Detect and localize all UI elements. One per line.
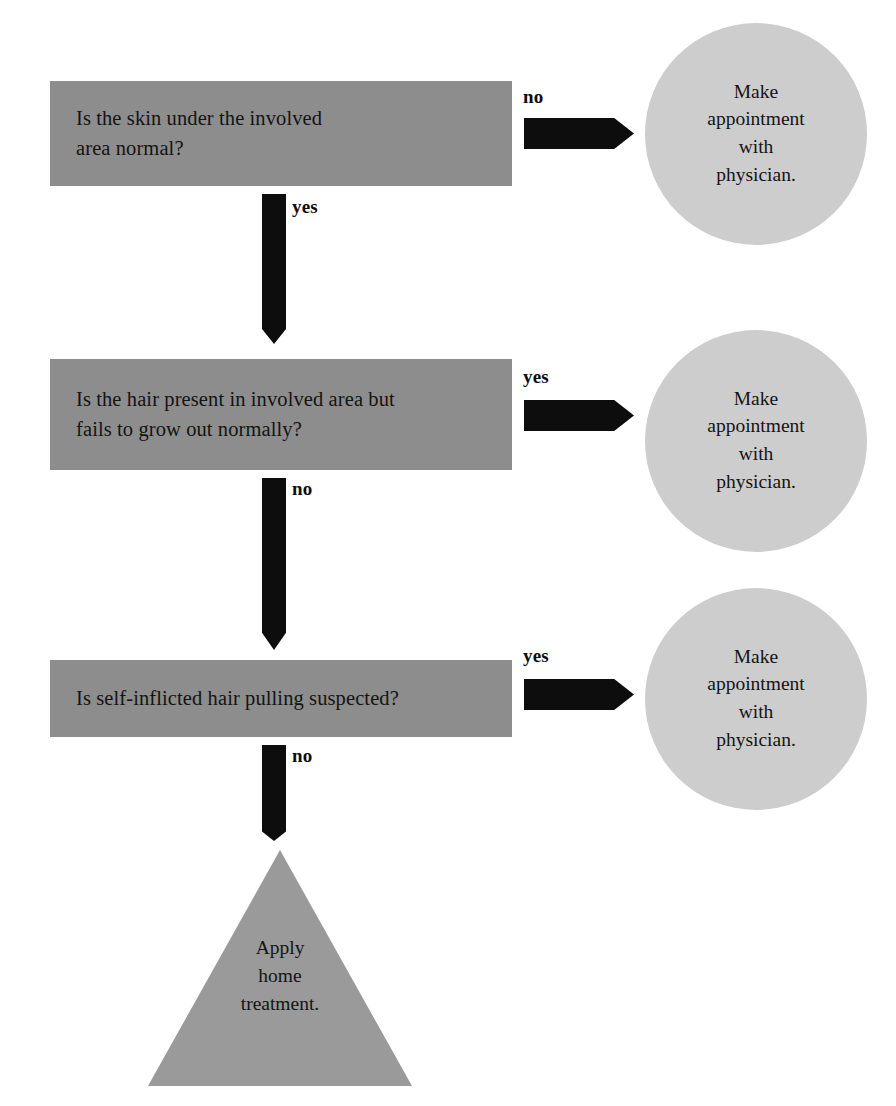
arrow-down-3 (262, 745, 286, 841)
outcome-node-3-label: Make appointment with physician. (707, 643, 804, 756)
outcome-node-3: Make appointment with physician. (645, 588, 867, 810)
edge-label-yes-2: yes (523, 366, 549, 388)
edge-label-no-2: no (292, 478, 312, 500)
arrow-down-1 (262, 194, 286, 344)
decision-node-2: Is the hair present in involved area but… (50, 359, 512, 470)
arrow-right-3 (524, 679, 634, 710)
outcome-node-1: Make appointment with physician. (645, 23, 867, 245)
arrow-right-1 (524, 118, 634, 149)
edge-label-no-3: no (292, 745, 312, 767)
edge-label-yes-1: yes (292, 196, 318, 218)
arrow-down-2 (262, 478, 286, 650)
decision-node-3-label: Is self-inflicted hair pulling suspected… (50, 684, 413, 713)
decision-node-1: Is the skin under the involved area norm… (50, 81, 512, 186)
decision-node-2-label: Is the hair present in involved area but… (50, 385, 409, 443)
decision-node-3: Is self-inflicted hair pulling suspected… (50, 660, 512, 737)
arrow-right-2 (524, 400, 634, 431)
outcome-node-2-label: Make appointment with physician. (707, 385, 804, 498)
outcome-node-2: Make appointment with physician. (645, 330, 867, 552)
flowchart-canvas: Is the skin under the involved area norm… (0, 0, 896, 1106)
terminal-node-label: Apply home treatment. (148, 934, 412, 1018)
edge-label-no-1: no (523, 86, 543, 108)
decision-node-1-label: Is the skin under the involved area norm… (50, 104, 336, 162)
outcome-node-1-label: Make appointment with physician. (707, 78, 804, 191)
edge-label-yes-3: yes (523, 645, 549, 667)
terminal-node: Apply home treatment. (148, 850, 412, 1086)
